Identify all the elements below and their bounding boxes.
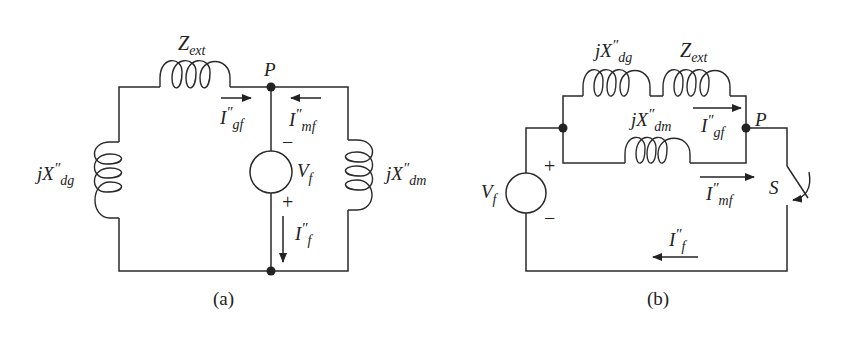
inductor-xdg-a: [94, 142, 121, 218]
caption-a: (a): [213, 288, 234, 310]
sign-plus-a: +: [282, 191, 293, 213]
label-vf-b: Vf: [481, 181, 499, 207]
wire-a-left-top: [119, 87, 160, 142]
label-vf-a: Vf: [297, 160, 315, 186]
circuit-figure: Zext P I″gf I″mf jX″dg jX″dm Vf − + I″f …: [0, 0, 856, 337]
label-imf-b: I″mf: [705, 180, 735, 208]
label-xdm-b: jX″dm: [628, 106, 671, 134]
node-p-a: [267, 83, 276, 92]
sign-minus-b: −: [544, 207, 555, 229]
panel-b: jX″dg Zext jX″dm I″gf P I″mf S Vf + − I″…: [481, 37, 810, 310]
label-igf-b: I″gf: [700, 112, 727, 140]
inductor-xdm-a: [345, 140, 372, 210]
voltage-source-a: [250, 151, 292, 193]
label-xdm-a: jX″dm: [383, 160, 426, 188]
inductor-zext-a: [160, 61, 230, 88]
wire-b-bottom: [526, 205, 787, 271]
sign-plus-b: +: [544, 155, 555, 177]
node-p-b: [742, 124, 751, 133]
label-zext-a: Zext: [178, 32, 207, 58]
label-node-p-a: P: [263, 59, 276, 80]
label-xdg-b: jX″dg: [592, 37, 632, 65]
sign-minus-a: −: [282, 131, 293, 153]
panel-a: Zext P I″gf I″mf jX″dg jX″dm Vf − + I″f …: [34, 32, 426, 310]
label-zext-b: Zext: [680, 39, 709, 65]
node-left-b: [559, 124, 568, 133]
label-switch-s: S: [769, 177, 779, 198]
inductor-xdm-b: [625, 137, 690, 163]
label-if-b: I″f: [668, 226, 688, 254]
inductor-xdg-b: [583, 70, 650, 96]
caption-b: (b): [647, 288, 669, 310]
wire-b-right-top: [746, 128, 787, 166]
wire-a-left-bottom: [119, 210, 348, 271]
wire-b-top-right: [730, 96, 746, 128]
voltage-source-b: [506, 173, 546, 213]
inductor-zext-b: [663, 70, 730, 96]
label-if-a: I″f: [294, 220, 314, 248]
label-igf-a: I″gf: [219, 104, 246, 132]
wire-b-top-left: [563, 96, 583, 128]
wire-b-bottom-branch: [563, 128, 625, 163]
label-node-p-b: P: [754, 109, 767, 130]
node-bottom-a: [267, 267, 276, 276]
label-imf-a: I″mf: [288, 106, 318, 134]
label-xdg-a: jX″dg: [34, 160, 74, 188]
